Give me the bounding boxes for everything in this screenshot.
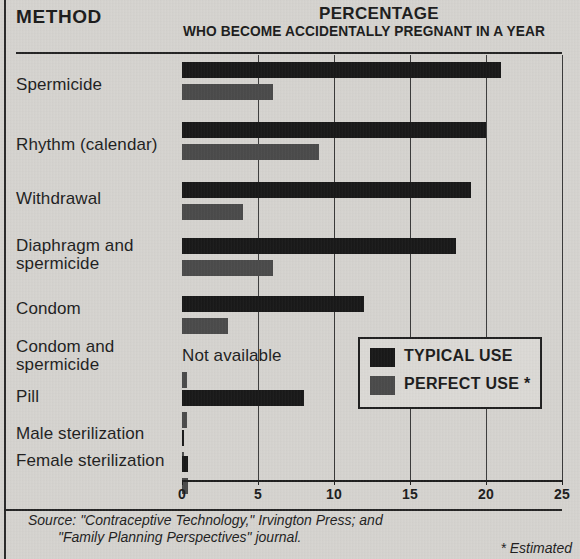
bar-typical-use [182,182,471,198]
category-label: Female sterilization [16,452,164,470]
method-column-header: METHOD [16,6,102,28]
bar-perfect-use [182,412,187,428]
source-line-1: Source: "Contraceptive Technology," Irvi… [28,512,383,528]
estimated-footnote: * Estimated [500,540,572,556]
legend-swatch-perfect-use [370,376,395,395]
bar-perfect-use [182,84,273,100]
x-tick-0 [182,480,183,485]
x-tick-label-20: 20 [466,486,506,502]
bar-typical-use [182,430,184,446]
x-tick-label-15: 15 [390,486,430,502]
gridline-20 [486,55,487,480]
bar-typical-use [182,390,304,406]
x-tick-5 [258,480,259,485]
chart-header: METHOD PERCENTAGE WHO BECOME ACCIDENTALL… [0,0,580,52]
source-line-2: "Family Planning Perspectives" journal. [58,529,458,546]
x-tick-label-25: 25 [542,486,580,502]
legend-label-typical-use: TYPICAL USE [404,347,513,365]
bar-typical-use [182,62,501,78]
bar-perfect-use [182,204,243,220]
category-label: Male sterilization [16,425,144,443]
bar-typical-use [182,456,188,472]
bar-typical-use [182,238,456,254]
header-divider [16,52,562,54]
x-tick-10 [334,480,335,485]
gridline-10 [334,55,335,480]
bar-typical-use [182,296,364,312]
legend-label-perfect-use: PERFECT USE * [404,375,531,393]
category-label: Pill [16,388,39,406]
category-label: Spermicide [16,76,102,94]
x-tick-20 [486,480,487,485]
bar-perfect-use [182,372,187,388]
gridline-15 [410,55,411,480]
footer-divider [4,509,562,511]
source-note: Source: "Contraceptive Technology," Irvi… [28,512,458,546]
not-available-label: Not available [182,346,282,366]
legend: TYPICAL USE PERFECT USE * [358,337,542,409]
bar-typical-use [182,122,486,138]
bar-perfect-use [182,318,228,334]
bar-perfect-use [182,260,273,276]
percentage-subtitle: WHO BECOME ACCIDENTALLY PREGNANT IN A YE… [154,23,573,39]
x-axis-line [182,480,563,482]
left-border-rule [4,0,6,559]
x-tick-25 [562,480,563,485]
bar-perfect-use [182,144,319,160]
category-label: Rhythm (calendar) [16,136,158,154]
chart-frame: METHOD PERCENTAGE WHO BECOME ACCIDENTALL… [0,0,580,559]
legend-swatch-typical-use [370,348,395,367]
category-label: Diaphragm and spermicide [16,237,134,273]
percentage-title: PERCENTAGE [180,4,578,23]
category-label: Condom [16,300,81,318]
x-tick-15 [410,480,411,485]
category-label: Withdrawal [16,190,101,208]
x-tick-label-5: 5 [238,486,278,502]
gridline-25 [562,55,563,480]
category-label: Condom and spermicide [16,338,114,374]
plot-area [182,55,562,480]
x-tick-label-10: 10 [314,486,354,502]
x-tick-label-0: 0 [162,486,202,502]
